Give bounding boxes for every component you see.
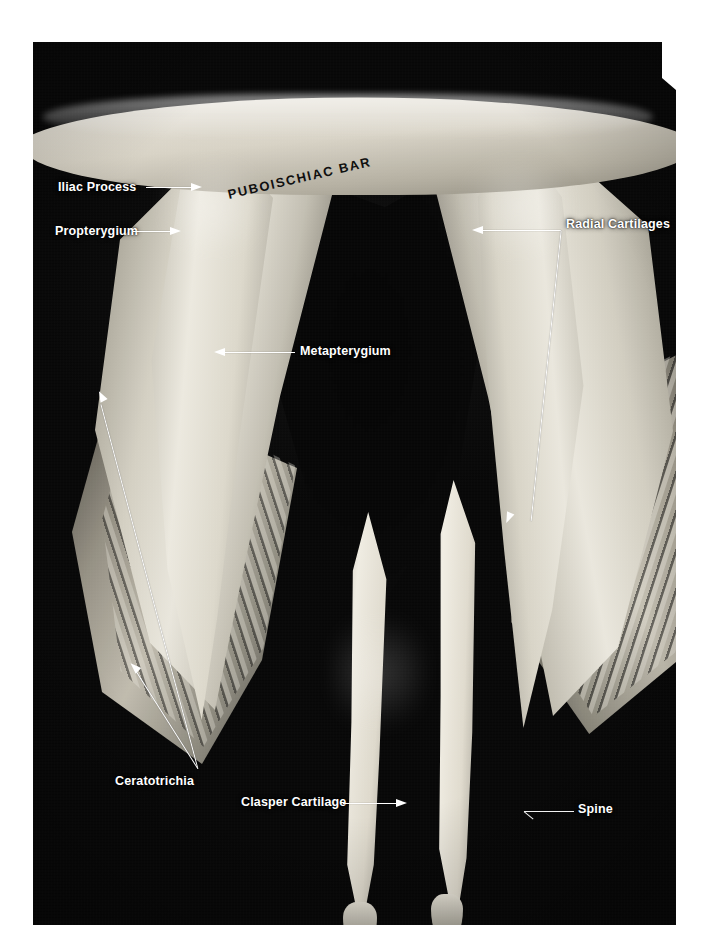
leader-ceratotrichia-upper	[100, 404, 198, 769]
leader-radial-cartilages-lower	[530, 231, 561, 522]
arrowhead-radial-cartilages-lower	[503, 511, 515, 524]
leader-clasper-cartilage	[343, 803, 398, 804]
leader-metapterygium	[225, 352, 295, 353]
figure-plate: Iliac Process Propterygium PUBOISCHIAC B…	[0, 0, 707, 948]
arrowhead-iliac-process	[191, 183, 202, 191]
annotation-layer: Iliac Process Propterygium PUBOISCHIAC B…	[0, 0, 707, 948]
leader-ceratotrichia-lower	[136, 671, 199, 769]
arrowhead-ceratotrichia-upper	[95, 389, 107, 402]
label-metapterygium: Metapterygium	[300, 345, 391, 358]
arrowhead-metapterygium	[214, 348, 225, 356]
arrowhead-clasper-cartilage	[396, 799, 407, 807]
label-spine: Spine	[578, 803, 613, 816]
leader-spine	[524, 811, 574, 812]
label-clasper-cartilage: Clasper Cartilage	[241, 796, 346, 809]
leader-iliac-process	[146, 187, 194, 188]
label-puboischiac-bar: PUBOISCHIAC BAR	[227, 155, 373, 201]
arrowhead-propterygium	[170, 227, 181, 235]
leader-propterygium	[133, 231, 173, 232]
label-iliac-process: Iliac Process	[58, 181, 136, 194]
label-propterygium: Propterygium	[55, 225, 138, 238]
arrowhead-radial-cartilages-upper	[472, 226, 483, 234]
leader-radial-cartilages-upper	[478, 230, 561, 231]
label-radial-cartilages: Radial Cartilages	[566, 218, 670, 231]
label-ceratotrichia: Ceratotrichia	[115, 775, 194, 788]
leader-spine-hook	[524, 811, 534, 820]
arrowhead-ceratotrichia-lower	[128, 660, 141, 673]
